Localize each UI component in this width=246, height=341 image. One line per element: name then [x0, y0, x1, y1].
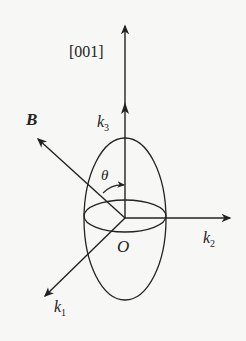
vector-b: [38, 139, 125, 218]
label-k2: k2: [203, 229, 215, 249]
theta-arc: [103, 185, 124, 193]
label-001: [001]: [69, 43, 104, 61]
label-k3: k3: [97, 113, 109, 133]
label-k1: k1: [54, 298, 66, 318]
label-theta: θ: [101, 167, 108, 184]
label-b: B: [26, 110, 37, 130]
axis-k1: [45, 218, 125, 296]
ellipsoid-diagram: [0, 0, 246, 341]
label-origin: O: [117, 237, 129, 257]
